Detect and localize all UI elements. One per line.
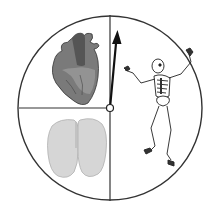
spinner-diagram xyxy=(0,0,212,213)
spinner-pivot xyxy=(107,105,114,112)
